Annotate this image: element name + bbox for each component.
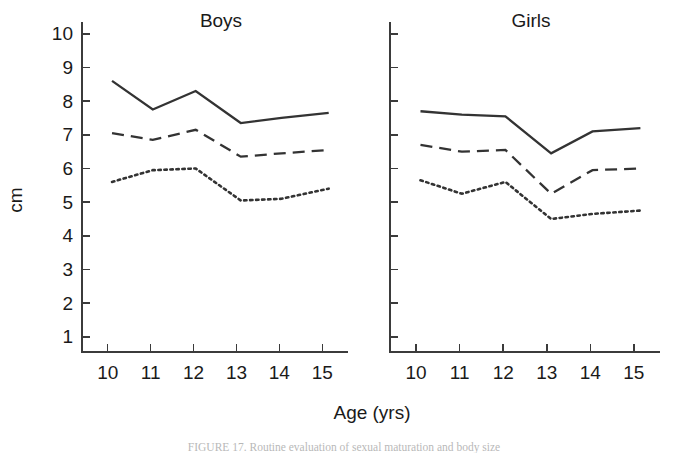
y-axis-title: cm — [5, 187, 26, 212]
y-tick-label-1: 1 — [62, 326, 73, 347]
x-axis-title: Age (yrs) — [333, 402, 410, 423]
x-tick-label-14: 14 — [269, 362, 291, 383]
y-tick-label-4: 4 — [62, 225, 73, 246]
x-tick-label-13: 13 — [226, 362, 247, 383]
x-tick-label-11: 11 — [141, 362, 161, 383]
x-tick-label-14: 14 — [580, 362, 602, 383]
x-tick-label-11: 11 — [450, 362, 470, 383]
axis-frame — [82, 22, 348, 352]
y-tick-label-9: 9 — [62, 57, 73, 78]
series-boys-lower — [112, 168, 329, 200]
panel-title-boys: Boys — [200, 10, 242, 31]
series-boys-upper — [112, 81, 329, 123]
y-tick-label-2: 2 — [62, 293, 73, 314]
y-tick-label-10: 10 — [52, 23, 73, 44]
series-girls-middle — [420, 145, 640, 194]
x-tick-label-15: 15 — [623, 362, 644, 383]
y-tick-label-8: 8 — [62, 91, 73, 112]
series-boys-middle — [112, 130, 329, 157]
y-tick-label-3: 3 — [62, 259, 73, 280]
x-tick-label-10: 10 — [406, 362, 427, 383]
x-tick-label-12: 12 — [493, 362, 514, 383]
series-girls-upper — [420, 111, 640, 153]
panel-girls: 101112131415Girls — [390, 10, 660, 383]
x-tick-label-13: 13 — [536, 362, 557, 383]
axis-frame — [390, 22, 660, 352]
x-tick-label-12: 12 — [183, 362, 204, 383]
y-tick-label-6: 6 — [62, 158, 73, 179]
figure-caption: FIGURE 17. Routine evaluation of sexual … — [0, 441, 688, 453]
series-girls-lower — [420, 180, 640, 219]
x-tick-label-10: 10 — [97, 362, 118, 383]
panel-title-girls: Girls — [511, 10, 550, 31]
y-tick-label-5: 5 — [62, 192, 73, 213]
panel-boys: 12345678910101112131415Boys — [52, 10, 348, 383]
x-tick-label-15: 15 — [312, 362, 333, 383]
y-tick-label-7: 7 — [62, 124, 73, 145]
